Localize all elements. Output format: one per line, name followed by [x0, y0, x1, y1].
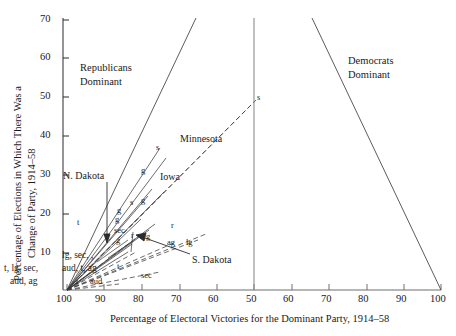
point-mark-aud-sd: aud — [90, 277, 102, 286]
point-mark-g-sd: g — [116, 236, 120, 245]
x-tick-label-1: 90 — [95, 293, 106, 304]
x-tick-label-2: 80 — [133, 293, 144, 304]
point-mark-t-origin: t — [76, 277, 78, 286]
series-north-dakota — [67, 189, 152, 290]
chart-canvas — [0, 0, 456, 336]
x-tick-label-4: 60 — [208, 293, 219, 304]
point-mark-s-nd: s — [130, 198, 133, 207]
corner-offices-label-line2: aud, ag — [10, 276, 37, 286]
y-tick-label-70: 70 — [40, 13, 51, 24]
region-label-republicans-line2: Dominant — [80, 76, 122, 87]
state-label-north-dakota: N. Dakota — [63, 171, 104, 182]
point-mark-sec-sd: sec — [141, 271, 152, 280]
x-tick-label-8: 80 — [358, 293, 369, 304]
x-tick-label-10: 100 — [430, 293, 446, 304]
x-tick-label-6: 60 — [283, 293, 294, 304]
x-axis-title: Percentage of Electoral Victories for th… — [110, 313, 389, 324]
point-mark-t-nd: t — [77, 218, 79, 227]
y-tick-label-20: 20 — [40, 207, 51, 218]
state-label-iowa: Iowa — [160, 172, 180, 183]
point-mark-t-sd: t — [117, 262, 119, 271]
region-label-democrats-line1: Democrats — [348, 55, 393, 66]
cluster-offices-label-line1: lg, sec, , — [62, 250, 93, 260]
point-mark-g-ia-1: g — [141, 196, 145, 205]
point-mark-r-ia: r — [131, 231, 134, 240]
point-mark-g-nd-2: g — [115, 215, 119, 224]
point-mark-s-ia: s — [156, 143, 159, 152]
x-tick-label-9: 90 — [396, 293, 407, 304]
y-tick-label-40: 40 — [40, 129, 51, 140]
point-mark-lg-mn: lg — [186, 238, 193, 247]
y-tick-label-10: 10 — [40, 246, 51, 257]
point-mark-g-ia-3: g — [146, 232, 150, 241]
point-mark-ag-mn: ag — [167, 238, 175, 247]
y-tick-label-60: 60 — [40, 51, 51, 62]
y-axis-title-line1: Percentage of Elections in Which There W… — [12, 86, 23, 281]
chart-root: Percentage of Elections in Which There W… — [0, 0, 456, 336]
point-mark-s-mn: s — [257, 93, 260, 102]
cluster-offices-label-line2: aud, t, ag — [62, 263, 97, 273]
y-axis-title-line2: Change of Party, 1914–58 — [26, 148, 37, 258]
point-mark-g-ia-2: g — [141, 166, 145, 175]
x-tick-label-0: 100 — [56, 293, 72, 304]
x-tick-label-5: 50 — [246, 293, 257, 304]
corner-offices-label-line1: t, lg, sec, — [4, 263, 38, 273]
state-label-south-dakota: S. Dakota — [192, 255, 231, 266]
region-label-democrats-line2: Dominant — [348, 69, 390, 80]
y-tick-label-30: 30 — [40, 168, 51, 179]
x-tick-label-3: 70 — [171, 293, 182, 304]
state-label-minnesota: Minnesota — [180, 134, 222, 145]
point-mark-r-mn: r — [171, 221, 174, 230]
x-tick-label-7: 70 — [321, 293, 332, 304]
point-mark-sec-nd: sec — [114, 226, 125, 235]
region-label-republicans-line1: Republicans — [80, 62, 132, 73]
y-tick-marks — [63, 20, 69, 253]
y-tick-label-50: 50 — [40, 90, 51, 101]
